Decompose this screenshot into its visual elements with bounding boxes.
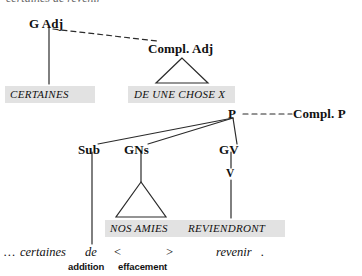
node-p: P bbox=[228, 107, 236, 120]
terminal-certaines: CERTAINES bbox=[10, 89, 69, 100]
edge-p-to-gv bbox=[233, 118, 237, 144]
terminal-de-une-chose-x: DE UNE CHOSE X bbox=[134, 89, 225, 100]
node-v: V bbox=[226, 168, 234, 180]
edge-p-to-sub bbox=[98, 118, 233, 144]
surface-ellipsis: … bbox=[4, 246, 15, 259]
triangle-gns bbox=[116, 182, 166, 217]
syntax-tree-figure: certaines de revenir bbox=[0, 0, 362, 276]
operation-addition: addition bbox=[68, 262, 104, 272]
terminal-nos-amies: NOS AMIES bbox=[110, 223, 168, 234]
node-compl-adj: Compl. Adj bbox=[148, 42, 213, 55]
terminal-reviendront: REVIENDRONT bbox=[188, 223, 265, 234]
surface-revenir: revenir bbox=[216, 246, 252, 259]
surface-de: de bbox=[85, 246, 97, 259]
edge-p-to-gns bbox=[148, 118, 233, 144]
triangle-compl-adj bbox=[156, 58, 208, 83]
node-g-adj: G Adj bbox=[29, 17, 63, 30]
surface-bracket-open: < bbox=[114, 246, 121, 259]
edge-gadj-to-compladj-dashed bbox=[53, 29, 157, 41]
node-sub: Sub bbox=[78, 143, 100, 156]
surface-bracket-close: > bbox=[166, 246, 173, 259]
surface-certaines: certaines bbox=[20, 246, 66, 259]
node-gv: GV bbox=[219, 143, 239, 156]
surface-period: . bbox=[261, 246, 264, 259]
operation-effacement: effacement bbox=[118, 262, 167, 272]
node-gns: GNs bbox=[124, 143, 149, 156]
node-compl-p: Compl. P bbox=[293, 107, 346, 120]
